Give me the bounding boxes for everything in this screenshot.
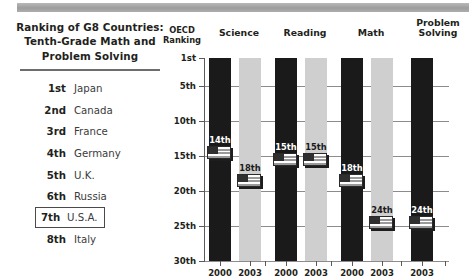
- y-axis-tick-label: 30th: [174, 256, 196, 266]
- data-point-marker: 24th: [409, 206, 435, 230]
- data-point-value-label: 15th: [303, 143, 329, 152]
- panel-title-line-3: Problem Solving: [14, 49, 166, 63]
- panel-title-line-2: Tenth-Grade Math and: [14, 34, 166, 48]
- ranking-country-name: U.K.: [74, 170, 95, 181]
- x-axis-year-label: 2003: [370, 268, 394, 278]
- ranking-position: 1st: [40, 83, 66, 94]
- data-point-value-label: 14th: [207, 136, 233, 145]
- ranking-country-name: France: [74, 126, 108, 137]
- panel-title-line-1: Ranking of G8 Countries:: [14, 20, 166, 34]
- group-header-reading: Reading: [275, 28, 335, 38]
- plot-area: 1st5th10th15th20th25th30thScience200014t…: [204, 58, 449, 262]
- group-header-math: Math: [341, 28, 401, 38]
- data-point-value-label: 15th: [273, 143, 299, 152]
- country-ranking-list: 1stJapan2ndCanada3rdFrance4thGermany5thU…: [14, 78, 166, 250]
- x-axis-tick: [382, 261, 383, 266]
- y-axis-tick-label: 25th: [174, 221, 196, 231]
- ranking-country-name: Japan: [74, 83, 102, 94]
- data-point-marker: 18th: [339, 164, 365, 188]
- data-point-marker: 18th: [237, 164, 263, 188]
- us-flag-icon: [339, 174, 365, 188]
- x-axis-tick: [286, 261, 287, 266]
- data-point-marker: 24th: [369, 206, 395, 230]
- data-point-marker: 15th: [273, 143, 299, 167]
- oecd-ranking-chart: OECD Ranking 1st5th10th15th20th25th30thS…: [160, 18, 472, 270]
- x-axis-separator-tick: [445, 261, 446, 266]
- ranking-row-highlighted: 7thU.S.A.: [35, 207, 105, 228]
- x-axis-separator-tick: [265, 261, 266, 266]
- ranking-position: 4th: [40, 148, 66, 159]
- ranking-position: 7th: [41, 212, 61, 223]
- x-axis-year-label: 2000: [340, 268, 364, 278]
- ranking-country-name: Canada: [74, 105, 113, 116]
- y-axis-tick-label: 5th: [180, 81, 196, 91]
- us-flag-icon: [207, 146, 233, 160]
- ranking-row: 4thGermany: [14, 143, 166, 165]
- x-axis-tick: [250, 261, 251, 266]
- x-axis-year-label: 2003: [238, 268, 262, 278]
- x-axis-tick: [220, 261, 221, 266]
- data-point-value-label: 18th: [237, 164, 263, 173]
- us-flag-icon: [303, 153, 329, 167]
- ranking-panel: Ranking of G8 Countries: Tenth-Grade Mat…: [14, 20, 166, 260]
- ranking-row: 3rdFrance: [14, 121, 166, 143]
- ranking-country-name: Germany: [74, 148, 121, 159]
- us-flag-icon: [273, 153, 299, 167]
- top-divider-bar: [17, 3, 469, 12]
- x-axis-year-label: 2003: [304, 268, 328, 278]
- us-flag-icon: [369, 216, 395, 230]
- y-axis-title-line-2: Ranking: [160, 36, 204, 46]
- ranking-position: 3rd: [40, 126, 66, 137]
- bar-math-2003: [371, 58, 393, 261]
- ranking-row: 8thItaly: [14, 228, 166, 250]
- y-axis-tick-label: 15th: [174, 151, 196, 161]
- data-point-marker: 15th: [303, 143, 329, 167]
- ranking-row: 5thU.K.: [14, 164, 166, 186]
- data-point-value-label: 24th: [409, 206, 435, 215]
- y-axis-tick: [199, 121, 205, 122]
- ranking-row: 1stJapan: [14, 78, 166, 100]
- ranking-country-name: U.S.A.: [67, 212, 97, 223]
- ranking-position: 5th: [40, 170, 66, 181]
- panel-title-divider: [20, 69, 160, 71]
- y-axis-tick: [199, 261, 205, 262]
- y-axis-tick: [199, 58, 205, 59]
- ranking-country-name: Italy: [74, 234, 96, 245]
- y-axis-tick: [199, 156, 205, 157]
- ranking-row: 2ndCanada: [14, 99, 166, 121]
- x-axis-tick: [352, 261, 353, 266]
- x-axis-year-label: 2000: [274, 268, 298, 278]
- x-axis-year-label: 2000: [208, 268, 232, 278]
- y-axis-title: OECD Ranking: [160, 26, 204, 45]
- gridline: [205, 261, 449, 262]
- y-axis-tick: [199, 191, 205, 192]
- data-point-value-label: 18th: [339, 164, 365, 173]
- panel-title: Ranking of G8 Countries: Tenth-Grade Mat…: [14, 20, 166, 63]
- bar-math-2000: [341, 58, 363, 261]
- x-axis-separator-tick: [401, 261, 402, 266]
- bar-science-2003: [239, 58, 261, 261]
- x-axis-year-label: 2003: [410, 268, 434, 278]
- ranking-position: 2nd: [40, 105, 66, 116]
- y-axis-tick-label: 20th: [174, 186, 196, 196]
- data-point-marker: 14th: [207, 136, 233, 160]
- y-axis-tick: [199, 226, 205, 227]
- bar-problem-solving-2003: [411, 58, 433, 261]
- ranking-row: 6thRussia: [14, 186, 166, 208]
- us-flag-icon: [409, 216, 435, 230]
- ranking-position: 8th: [40, 234, 66, 245]
- y-axis-tick-label: 1st: [181, 53, 196, 63]
- y-axis-tick: [199, 86, 205, 87]
- x-axis-separator-tick: [331, 261, 332, 266]
- group-header-problem-solving: ProblemSolving: [409, 18, 467, 39]
- y-axis-tick-label: 10th: [174, 116, 196, 126]
- group-header-science: Science: [209, 28, 269, 38]
- x-axis-tick: [316, 261, 317, 266]
- ranking-position: 6th: [40, 191, 66, 202]
- x-axis-tick: [422, 261, 423, 266]
- data-point-value-label: 24th: [369, 206, 395, 215]
- ranking-country-name: Russia: [74, 191, 107, 202]
- us-flag-icon: [237, 174, 263, 188]
